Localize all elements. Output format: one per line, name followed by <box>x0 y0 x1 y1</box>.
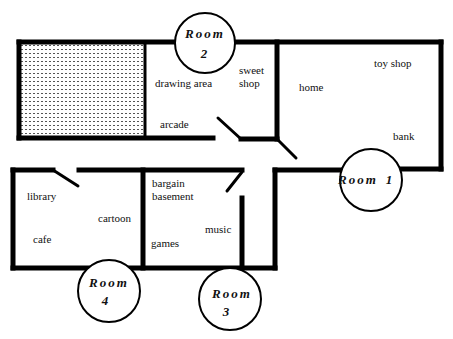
label-sweet: sweet <box>239 64 264 76</box>
door-arcade <box>218 118 241 139</box>
label-cafe: cafe <box>33 233 51 245</box>
lower-left-walls <box>13 170 275 268</box>
label-drawing-area: drawing area <box>155 77 212 89</box>
label-toy-shop: toy shop <box>374 57 412 69</box>
label-library: library <box>27 190 57 202</box>
room-1-title: Room <box>337 172 378 187</box>
room-4-marker: Room 4 <box>78 260 140 322</box>
door-basement <box>227 172 242 191</box>
label-games: games <box>151 237 179 249</box>
label-home: home <box>299 81 324 93</box>
room-3-marker: Room 3 <box>199 268 261 330</box>
label-arcade: arcade <box>160 118 189 130</box>
room-2-marker: Room 2 <box>175 13 235 73</box>
lower-middle-walls <box>227 170 275 268</box>
room-1-marker: Room 1 <box>337 149 402 211</box>
room-4-title: Room <box>88 275 129 290</box>
label-basement: basement <box>152 190 194 202</box>
room-4-number: 4 <box>101 293 111 308</box>
hatched-area <box>21 45 144 136</box>
door-home <box>277 139 296 158</box>
label-shop: shop <box>239 77 260 89</box>
room-2-title: Room <box>184 26 225 41</box>
door-library <box>53 170 78 186</box>
label-bargain: bargain <box>152 177 185 189</box>
floor-plan: drawing area sweet shop arcade home toy … <box>0 0 453 339</box>
room-2-number: 2 <box>200 46 210 61</box>
label-cartoon: cartoon <box>98 212 131 224</box>
label-bank: bank <box>393 130 415 142</box>
room-3-number: 3 <box>222 304 232 319</box>
label-music: music <box>205 223 231 235</box>
room-3-title: Room <box>211 286 252 301</box>
room-1-number: 1 <box>386 172 395 187</box>
